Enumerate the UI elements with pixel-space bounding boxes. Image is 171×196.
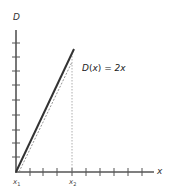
y-axis-label: D bbox=[13, 12, 20, 22]
equation-var: x bbox=[92, 63, 97, 73]
lower-dashed-line bbox=[19, 62, 72, 172]
x1-label: x1 bbox=[13, 178, 20, 187]
x2-sub: 2 bbox=[73, 181, 76, 187]
x-axis-label: x bbox=[157, 166, 162, 176]
equation-label: D(x) = 2x bbox=[82, 63, 126, 73]
equation-rhs: 2x bbox=[115, 63, 126, 73]
plot-canvas bbox=[0, 0, 171, 196]
main-line-d-equals-2x bbox=[16, 49, 74, 172]
x2-label: x2 bbox=[69, 178, 76, 187]
x1-sub: 1 bbox=[17, 181, 20, 187]
equation-func: D bbox=[82, 63, 89, 73]
